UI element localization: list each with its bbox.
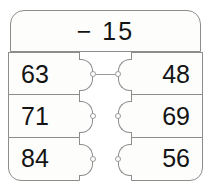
left-cell-2-value: 71 bbox=[21, 104, 49, 129]
right-column: 48 69 56 bbox=[131, 52, 203, 181]
right-cell-2-value: 69 bbox=[162, 104, 190, 129]
left-cell-1-value: 63 bbox=[21, 62, 49, 87]
right-cell-1[interactable]: 48 bbox=[131, 52, 203, 96]
connector-line-63-48[interactable] bbox=[96, 74, 115, 75]
left-cell-3-connector-knob[interactable] bbox=[90, 156, 96, 162]
right-cell-1-connector-knob[interactable] bbox=[115, 71, 121, 77]
left-cell-3[interactable]: 84 bbox=[8, 137, 80, 181]
left-column: 63 71 84 bbox=[8, 52, 80, 181]
left-cell-2[interactable]: 71 bbox=[8, 94, 80, 138]
left-cell-3-value: 84 bbox=[21, 146, 49, 171]
right-cell-3-connector-knob[interactable] bbox=[115, 156, 121, 162]
left-cell-1-connector-knob[interactable] bbox=[90, 71, 96, 77]
right-cell-2[interactable]: 69 bbox=[131, 94, 203, 138]
left-cell-2-connector-knob[interactable] bbox=[90, 113, 96, 119]
header-rule-label: − 15 bbox=[77, 19, 134, 44]
matching-puzzle: − 15 63 71 84 48 69 bbox=[0, 0, 211, 184]
right-cell-3[interactable]: 56 bbox=[131, 137, 203, 181]
puzzle-header: − 15 bbox=[10, 10, 201, 52]
right-cell-1-value: 48 bbox=[162, 62, 190, 87]
left-cell-1[interactable]: 63 bbox=[8, 52, 80, 96]
right-cell-3-value: 56 bbox=[162, 146, 190, 171]
